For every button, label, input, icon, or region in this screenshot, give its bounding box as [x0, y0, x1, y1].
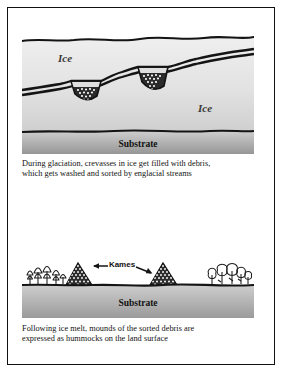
label-substrate-postmelt: Substrate — [118, 298, 157, 308]
caption-postmelt: Following ice melt, mounds of the sorted… — [22, 324, 260, 344]
panel-glaciation: Ice Ice Substrate — [22, 34, 254, 154]
kames-arrow-right — [136, 267, 153, 274]
label-kames: Kames — [109, 260, 136, 269]
caption-postmelt-line-2: expressed as hummocks on the land surfac… — [22, 334, 260, 344]
kame-mound-left — [66, 263, 92, 285]
tree-group-right — [208, 264, 252, 284]
label-substrate-glaciation: Substrate — [118, 139, 157, 149]
glaciation-illustration: Ice Ice Substrate — [22, 34, 254, 154]
figure-root: Ice Ice Substrate During glaciation, cre… — [0, 0, 282, 372]
postmelt-illustration: Kames Substrate — [22, 250, 254, 318]
label-ice-left: Ice — [57, 52, 72, 64]
caption-glaciation: During glaciation, crevasses in ice get … — [22, 159, 260, 179]
kame-mound-right — [150, 263, 177, 285]
tree-group-left — [27, 267, 66, 285]
caption-glaciation-line-1: During glaciation, crevasses in ice get … — [22, 159, 260, 169]
caption-postmelt-line-1: Following ice melt, mounds of the sorted… — [22, 324, 260, 334]
label-ice-right: Ice — [197, 102, 212, 114]
panel-postmelt: Kames Substrate — [22, 250, 254, 318]
caption-glaciation-line-2: which gets washed and sorted by englacia… — [22, 169, 260, 179]
kames-arrow-left — [93, 263, 108, 269]
